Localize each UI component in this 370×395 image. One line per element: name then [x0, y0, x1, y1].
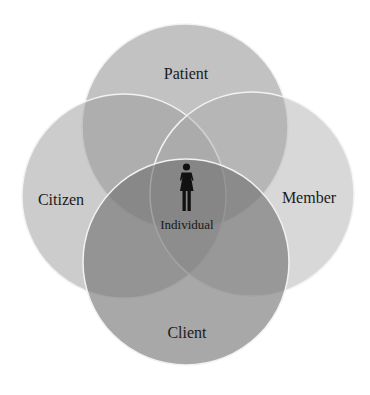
- label-member: Member: [282, 189, 337, 206]
- label-client: Client: [167, 324, 207, 341]
- label-citizen: Citizen: [38, 191, 84, 208]
- label-individual: Individual: [160, 217, 214, 232]
- label-patient: Patient: [164, 65, 209, 82]
- venn-diagram: Patient Citizen Member Client Individual: [0, 0, 370, 395]
